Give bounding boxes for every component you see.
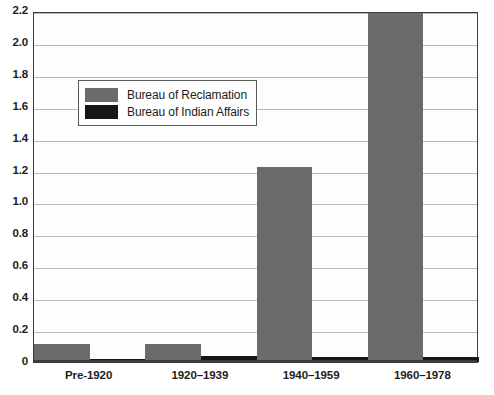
bar-reclamation: [257, 167, 313, 362]
y-axis-tick-label: 0: [0, 355, 28, 367]
y-axis-tick-label: 2.2: [0, 4, 28, 16]
x-axis-tick-label: 1920–1939: [144, 369, 255, 381]
y-axis-tick-label: 1.2: [0, 164, 28, 176]
legend-entry: Bureau of Indian Affairs: [85, 103, 249, 120]
y-axis-tick-label: 0.6: [0, 259, 28, 271]
y-axis-tick-label: 2.0: [0, 36, 28, 48]
y-axis-tick-label: 1.0: [0, 195, 28, 207]
bar-group: [368, 13, 479, 362]
y-axis-tick-label: 1.4: [0, 132, 28, 144]
legend-entry: Bureau of Reclamation: [85, 86, 249, 103]
x-axis-tick-label: Pre-1920: [33, 369, 144, 381]
bar-group: [145, 13, 256, 362]
chart-legend: Bureau of Reclamation Bureau of Indian A…: [78, 80, 257, 126]
x-axis-tick-label: 1940–1959: [256, 369, 367, 381]
y-axis-tick-label: 1.8: [0, 68, 28, 80]
y-axis-tick-label: 0.8: [0, 227, 28, 239]
bar-group: [34, 13, 145, 362]
y-axis-tick-label: 1.6: [0, 100, 28, 112]
bar-group: [257, 13, 368, 362]
legend-label-reclamation: Bureau of Reclamation: [127, 88, 247, 102]
legend-swatch-indian-affairs: [85, 105, 118, 119]
plot-area: [33, 12, 478, 363]
x-axis-tick-label: 1960–1978: [367, 369, 478, 381]
y-axis-tick-label: 0.2: [0, 323, 28, 335]
legend-swatch-reclamation: [85, 88, 118, 102]
x-axis-baseline: [34, 360, 477, 362]
y-axis-tick-label: 0.4: [0, 291, 28, 303]
bar-reclamation: [368, 13, 424, 362]
legend-label-indian-affairs: Bureau of Indian Affairs: [127, 105, 249, 119]
bar-chart: 2.22.01.81.61.41.21.00.80.60.40.20 Pre-1…: [0, 0, 494, 395]
